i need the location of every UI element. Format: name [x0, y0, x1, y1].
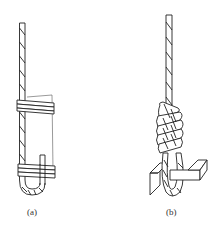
upper-seizing: [17, 100, 54, 114]
cross-pin: [170, 160, 207, 180]
coiled-whipping: [157, 102, 184, 153]
panel-b: (b): [150, 15, 207, 217]
rope-loop: [20, 180, 46, 195]
panel-a-label: (a): [27, 207, 37, 217]
panel-b-label: (b): [166, 207, 177, 217]
panel-a: (a): [17, 23, 55, 217]
rope-diagram: (a): [0, 0, 222, 237]
rope-standing-part: [166, 15, 172, 110]
lower-seizing: [18, 164, 55, 178]
